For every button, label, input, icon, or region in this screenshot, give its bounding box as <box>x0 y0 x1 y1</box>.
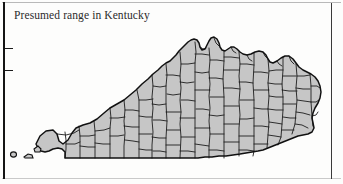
mississippi-islet-group <box>11 146 42 158</box>
figure-panel: Presumed range in Kentucky <box>0 0 343 184</box>
kentucky-range-map <box>0 18 343 178</box>
frame-bottom-edge <box>2 178 341 179</box>
frame-top-edge <box>2 2 341 3</box>
state-fill-group <box>36 37 321 158</box>
